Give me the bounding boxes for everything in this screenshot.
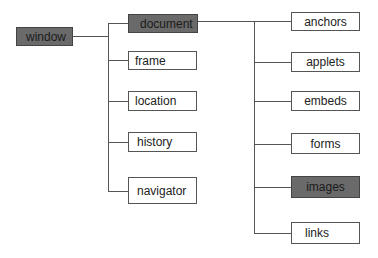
node-navigator: navigator: [128, 177, 197, 204]
connector-embeds: [254, 101, 291, 102]
node-links: links: [291, 222, 360, 244]
connector-forms: [254, 144, 291, 145]
node-applets: applets: [291, 52, 360, 72]
node-history: history: [128, 132, 197, 152]
node-forms: forms: [291, 133, 360, 154]
connector-frame: [108, 60, 128, 61]
connector-images: [254, 187, 291, 188]
trunk-document: [254, 21, 255, 233]
connector-window: [73, 36, 108, 37]
connector-location: [108, 101, 128, 102]
connector-navigator: [108, 191, 128, 192]
node-location: location: [128, 91, 197, 111]
connector-applets: [254, 62, 291, 63]
node-embeds: embeds: [291, 91, 360, 111]
node-document: document: [128, 14, 198, 33]
connector-document: [108, 23, 128, 24]
connector-links: [254, 233, 291, 234]
trunk-window: [108, 23, 109, 191]
connector-history: [108, 142, 128, 143]
node-images: images: [291, 176, 360, 198]
connector-document-out: [198, 21, 291, 22]
node-anchors: anchors: [291, 12, 360, 31]
node-window: window: [16, 27, 73, 46]
node-frame: frame: [128, 51, 197, 70]
